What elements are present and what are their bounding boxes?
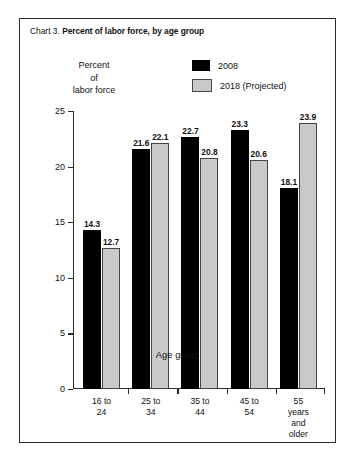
bar: [102, 248, 120, 389]
y-axis-line: [73, 111, 74, 389]
bar-value-label: 20.8: [201, 147, 217, 157]
bar-value-label: 12.7: [103, 237, 119, 247]
y-axis-tick: [68, 222, 73, 223]
y-axis-tick: [68, 111, 73, 112]
bar-group: 21.622.125 to 34: [128, 111, 177, 389]
y-axis-caption-line-1: Percent: [48, 59, 140, 72]
bar-value-label: 21.6: [133, 138, 149, 148]
chart-title: Chart 3. Percent of labor force, by age …: [30, 26, 327, 37]
chart-title-prefix: Chart 3.: [30, 26, 60, 36]
chart-legend: 20082018 (Projected): [192, 57, 287, 97]
x-axis-tick: [324, 389, 325, 394]
legend-label: 2018 (Projected): [220, 81, 287, 91]
x-axis-category-label: 35 to 44: [187, 396, 214, 418]
y-axis-tick-label: 25: [55, 106, 65, 116]
x-axis-tick: [177, 389, 178, 394]
y-axis-caption-line-3: labor force: [48, 84, 140, 97]
y-axis-tick: [68, 167, 73, 168]
legend-swatch-icon: [192, 79, 212, 92]
chart-figure: Chart 3. Percent of labor force, by age …: [19, 18, 336, 443]
x-axis-title: Age group: [20, 349, 335, 360]
bar-group: 23.320.645 to 54: [227, 111, 276, 389]
y-axis-tick-label: 5: [60, 328, 65, 338]
plot-area: 051015202514.312.716 to 2421.622.125 to …: [73, 111, 325, 389]
bar-value-label: 23.3: [232, 119, 248, 129]
x-axis-category-label: 25 to 34: [137, 396, 164, 418]
legend-item: 2008: [192, 57, 287, 74]
x-axis-category-label: 45 to 54: [236, 396, 263, 418]
x-axis-tick: [276, 389, 277, 394]
bar-value-label: 18.1: [281, 177, 297, 187]
bar-value-label: 22.1: [152, 132, 168, 142]
y-axis-caption: Percent of labor force: [48, 59, 140, 97]
y-axis-tick-label: 10: [55, 273, 65, 283]
bar-group: 18.123.955 years and older: [276, 111, 325, 389]
y-axis-tick-label: 15: [55, 217, 65, 227]
bar-value-label: 20.6: [251, 149, 267, 159]
legend-label: 2008: [218, 61, 238, 71]
y-axis-tick-label: 20: [55, 162, 65, 172]
y-axis-tick: [68, 389, 73, 390]
bar: [83, 230, 101, 389]
x-axis-tick: [128, 389, 129, 394]
bar-value-label: 22.7: [182, 126, 198, 136]
y-axis-tick: [68, 278, 73, 279]
legend-swatch-icon: [192, 60, 210, 71]
y-axis-tick: [68, 333, 73, 334]
y-axis-tick-label: 0: [60, 384, 65, 394]
x-axis-category-label: 16 to 24: [88, 396, 115, 418]
chart-title-main: Percent of labor force, by age group: [62, 26, 204, 36]
legend-item: 2018 (Projected): [192, 77, 287, 94]
bar-group: 14.312.716 to 24: [79, 111, 128, 389]
y-axis-caption-line-2: of: [48, 72, 140, 85]
x-axis-tick: [227, 389, 228, 394]
x-axis-category-label: 55 years and older: [285, 396, 312, 440]
bar-value-label: 14.3: [84, 219, 100, 229]
bar-group: 22.720.835 to 44: [177, 111, 226, 389]
bar-value-label: 23.9: [300, 112, 316, 122]
